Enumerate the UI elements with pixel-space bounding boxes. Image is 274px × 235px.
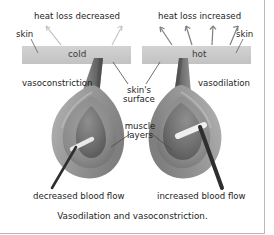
label-heat-loss-decreased: heat loss decreased [34, 12, 120, 21]
label-skin-left: skin [16, 30, 33, 39]
label-cold: cold [68, 50, 86, 60]
vessel-cold [52, 58, 125, 178]
figure-caption: Vasodilation and vasoconstriction. [0, 212, 265, 222]
label-hot: hot [192, 50, 206, 60]
label-skin-right: skin [236, 30, 253, 39]
vasodilation-vasoconstriction-figure: heat loss decreased heat loss increased … [0, 0, 274, 235]
label-muscle-layers: muscle layers [113, 122, 167, 141]
label-heat-loss-increased: heat loss increased [158, 12, 241, 21]
label-vasodilation: vasodilation [198, 79, 250, 88]
label-decreased-blood-flow: decreased blood flow [33, 192, 125, 201]
heat-loss-arrows-cold [46, 26, 122, 45]
label-skins-surface: skin's surface [112, 86, 166, 105]
label-increased-blood-flow: increased blood flow [157, 192, 246, 201]
label-vasoconstriction: vasoconstriction [22, 79, 92, 88]
heat-loss-arrows-hot [160, 26, 238, 45]
